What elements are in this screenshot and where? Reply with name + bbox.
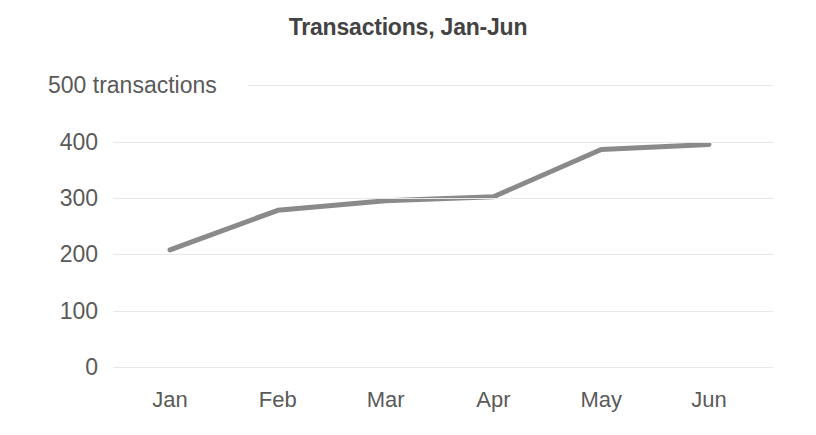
plot-area: 0100200300400500 transactionsJanFebMarAp… [0,0,816,435]
line-chart: Transactions, Jan-Jun 0100200300400500 t… [0,0,816,435]
gridline-200 [113,254,773,255]
series-line-group [0,0,816,435]
y-axis-tick-label-100: 100 [0,297,98,324]
gridline-0 [113,367,773,368]
x-axis-tick-label-mar: Mar [367,387,405,413]
y-axis-tick-label-500: 500 transactions [48,72,217,99]
x-axis-tick-label-may: May [580,387,622,413]
x-axis-tick-label-jan: Jan [152,387,187,413]
y-axis-tick-label-300: 300 [0,184,98,211]
y-axis-tick-label-0: 0 [0,354,98,381]
y-axis-tick-label-400: 400 [0,128,98,155]
y-axis-tick-label-200: 200 [0,241,98,268]
x-axis-tick-label-feb: Feb [259,387,297,413]
x-axis-tick-label-apr: Apr [476,387,510,413]
gridline-300 [113,198,773,199]
gridline-400 [113,142,773,143]
x-axis-tick-label-jun: Jun [691,387,726,413]
gridline-500 [248,85,773,86]
gridline-100 [113,311,773,312]
